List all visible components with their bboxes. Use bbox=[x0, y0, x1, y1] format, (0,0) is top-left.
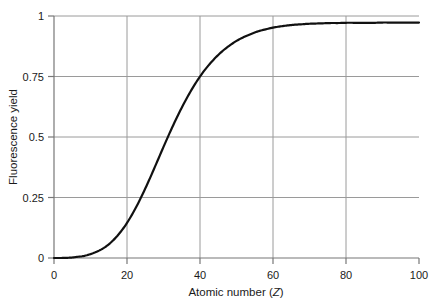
y-tick-label-0: 0 bbox=[38, 252, 44, 264]
x-axis-title: Atomic number (Z) bbox=[188, 286, 283, 298]
y-tick-label-025: 0.25 bbox=[23, 192, 44, 204]
y-tick-label-1: 1 bbox=[38, 10, 44, 22]
y-axis-title: Fluorescence yield bbox=[7, 89, 19, 185]
y-tick-label-05: 0.5 bbox=[29, 131, 44, 143]
x-tick-label-40: 40 bbox=[194, 269, 206, 281]
x-axis-title-plain: Atomic number ( bbox=[188, 286, 273, 298]
y-tick-label-075: 0.75 bbox=[23, 71, 44, 83]
x-tick-label-0: 0 bbox=[51, 269, 57, 281]
fluorescence-yield-line-chart: 1 0.75 0.5 0.25 0 0 20 40 60 80 100 Atom… bbox=[0, 0, 437, 302]
x-tick-label-100: 100 bbox=[410, 269, 428, 281]
x-tick-label-80: 80 bbox=[340, 269, 352, 281]
x-tick-label-60: 60 bbox=[267, 269, 279, 281]
chart-background bbox=[0, 0, 437, 302]
x-axis-title-close: ) bbox=[280, 286, 284, 298]
x-tick-label-20: 20 bbox=[121, 269, 133, 281]
chart-figure: 1 0.75 0.5 0.25 0 0 20 40 60 80 100 Atom… bbox=[0, 0, 437, 302]
